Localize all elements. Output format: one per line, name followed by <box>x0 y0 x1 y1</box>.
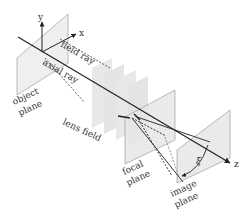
x-axis-label: x <box>79 28 84 38</box>
image-plane <box>177 110 230 183</box>
y-axis-label: y <box>37 12 44 22</box>
optical-axis <box>18 37 230 163</box>
optics-diagram: y x z field ray axial ray object plane l… <box>0 0 248 224</box>
z-axis-label: z <box>234 159 239 169</box>
